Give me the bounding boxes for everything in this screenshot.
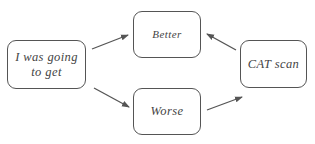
arrow-start-to-worse: [94, 88, 129, 107]
node-worse-label: Worse: [151, 104, 184, 119]
arrow-worse-to-cat: [207, 97, 242, 110]
arrow-cat-to-better: [207, 34, 236, 50]
node-cat-scan: CAT scan: [240, 40, 307, 88]
node-start: I was going to get: [7, 40, 86, 89]
node-better: Better: [133, 11, 201, 58]
node-cat-scan-label: CAT scan: [248, 57, 299, 72]
node-better-label: Better: [152, 27, 181, 42]
node-worse: Worse: [133, 88, 201, 135]
arrow-start-to-better: [92, 35, 128, 49]
node-start-label: I was going to get: [14, 50, 79, 80]
